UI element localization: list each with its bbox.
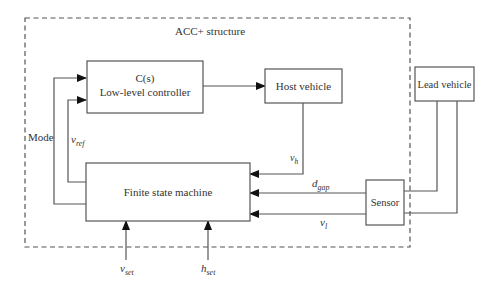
signal-label-h-set: hset — [201, 262, 216, 277]
host-vehicle-label: Host vehicle — [276, 80, 331, 92]
group-title: ACC+ structure — [175, 25, 245, 37]
edge-lead-to-sensor-1 — [404, 101, 437, 191]
fsm-label: Finite state machine — [124, 186, 213, 198]
controller-transfer-label: C(s) — [136, 72, 155, 85]
block-fsm: Finite state machine — [86, 163, 250, 221]
block-lead-vehicle: Lead vehicle — [415, 67, 474, 101]
signal-label-v-set: vset — [120, 262, 135, 277]
lead-vehicle-label: Lead vehicle — [418, 79, 472, 90]
block-sensor: Sensor — [366, 180, 404, 225]
edge-lead-to-sensor-2 — [404, 101, 457, 213]
block-host-vehicle: Host vehicle — [265, 69, 342, 103]
acc-structure-diagram: ACC+ structure C(s) Low-level controller… — [0, 0, 499, 289]
signal-label-v-ref: vref — [71, 133, 86, 148]
signal-label-v-l: vl — [320, 216, 328, 231]
signal-label-v-h: vh — [290, 152, 298, 166]
signal-label-d-gap: dgap — [312, 177, 330, 192]
block-controller: C(s) Low-level controller — [87, 61, 203, 113]
signal-label-mode: Mode — [28, 131, 54, 143]
sensor-label: Sensor — [371, 197, 400, 208]
controller-label: Low-level controller — [100, 86, 191, 98]
